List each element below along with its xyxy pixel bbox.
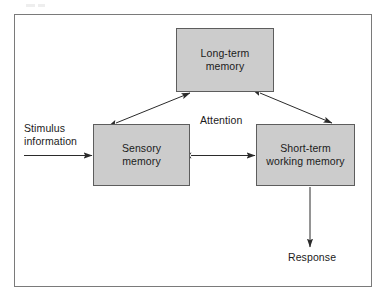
label-stimulus-information: Stimulus information xyxy=(24,122,77,148)
node-long-term-memory-label: Long-term memory xyxy=(199,47,252,73)
scan-artifact-mark xyxy=(38,4,45,7)
scan-artifact-mark xyxy=(26,4,35,7)
node-sensory-memory[interactable]: Sensory memory xyxy=(93,124,190,186)
node-sensory-memory-label: Sensory memory xyxy=(120,142,163,168)
node-long-term-memory[interactable]: Long-term memory xyxy=(176,28,274,92)
node-short-term-working-memory[interactable]: Short-term working memory xyxy=(256,124,355,186)
label-attention: Attention xyxy=(200,114,242,127)
memory-model-diagram: Long-term memory Sensory memory Short-te… xyxy=(0,0,386,296)
label-response: Response xyxy=(288,251,336,264)
node-short-term-working-memory-label: Short-term working memory xyxy=(264,142,346,168)
